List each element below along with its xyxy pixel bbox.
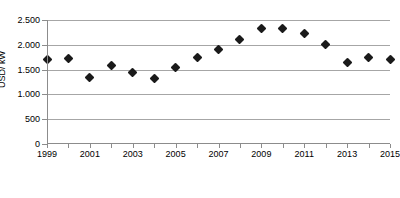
x-tick-label: 2007 bbox=[208, 150, 228, 159]
x-tick-label: 2011 bbox=[295, 150, 314, 159]
x-tick-label: 2005 bbox=[166, 150, 186, 159]
x-tick-label: 1999 bbox=[37, 150, 57, 159]
y-axis-title: USD/ kW bbox=[0, 51, 7, 88]
x-tick-label: 2001 bbox=[80, 150, 100, 159]
x-tick-label: 2013 bbox=[337, 150, 357, 159]
x-tick-label: 2015 bbox=[380, 150, 400, 159]
x-tick-label: 2009 bbox=[251, 150, 271, 159]
x-tick-label: 2003 bbox=[123, 150, 143, 159]
